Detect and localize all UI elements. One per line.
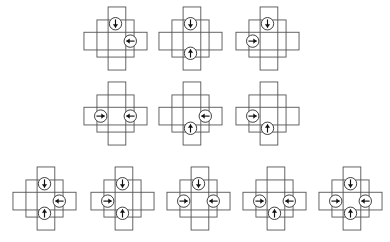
arrow-circle-up [268,207,280,219]
vertical-rectangle [115,166,133,229]
arrow-circle-right [94,109,106,121]
arrow-circle-down [38,177,50,189]
arrow-circle-down [184,17,196,29]
arrow-circle-up [184,122,196,134]
arrow-circle-left [283,194,295,206]
arrow-circle-left [359,194,371,206]
arrow-circle-up [116,207,128,219]
arrow-circle-down [109,17,121,29]
arrow-circle-left [53,194,65,206]
horizontal-rectangle [235,32,298,50]
arrow-circle-down [261,17,273,29]
arrow-circle-down [344,177,356,189]
arrow-circle-right [329,194,341,206]
arrow-circle-down [116,177,128,189]
arrow-circle-up [38,207,50,219]
vertical-rectangle [37,166,55,229]
arrow-circle-right [253,194,265,206]
vertical-rectangle [108,81,126,144]
arrow-circle-left [199,109,211,121]
arrow-circle-left [124,34,136,46]
vertical-rectangle [183,81,201,144]
vertical-rectangle [343,166,361,229]
arrow-circle-down [192,177,204,189]
vertical-rectangle [260,6,278,69]
arrow-circle-right [101,194,113,206]
arrow-circle-left [124,109,136,121]
vertical-rectangle [267,166,285,229]
vertical-rectangle [260,81,278,144]
arrow-circle-right [246,34,258,46]
vertical-rectangle [108,6,126,69]
vertical-rectangle [183,6,201,69]
arrow-circle-up [344,207,356,219]
arrow-circle-right [177,194,189,206]
arrow-circle-up [261,122,273,134]
diagram-canvas: py y [0,0,390,242]
arrow-circle-right [246,109,258,121]
arrow-circle-up [184,47,196,59]
vertical-rectangle [191,166,209,229]
arrow-circle-left [207,194,219,206]
horizontal-rectangle [83,107,146,125]
horizontal-rectangle [166,192,229,210]
horizontal-rectangle [83,32,146,50]
